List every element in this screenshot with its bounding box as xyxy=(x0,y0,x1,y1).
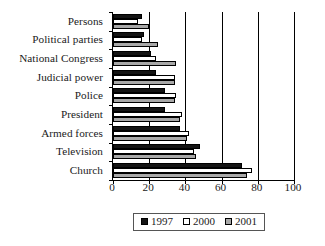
bar-2001 xyxy=(113,173,247,178)
category-label: Persons xyxy=(0,12,108,31)
y-axis-category-labels: PersonsPolitical partiesNational Congres… xyxy=(0,12,108,180)
category-label: National Congress xyxy=(0,49,108,68)
category-label: Armed forces xyxy=(0,124,108,143)
bar-2001 xyxy=(113,154,196,159)
legend-item: 2000 xyxy=(183,216,215,227)
bar-2001 xyxy=(113,24,149,29)
x-tick-label: 60 xyxy=(215,182,226,193)
x-tick-label: 0 xyxy=(109,182,115,193)
bar-group xyxy=(113,124,294,143)
bar-2001 xyxy=(113,98,175,103)
bar-group xyxy=(113,12,294,31)
category-label: Judicial power xyxy=(0,68,108,87)
bar-group xyxy=(113,49,294,68)
plot-area xyxy=(112,12,294,180)
bar-group xyxy=(113,31,294,50)
x-tick-label: 80 xyxy=(251,182,262,193)
bar-group xyxy=(113,143,294,162)
legend-label: 2000 xyxy=(193,216,215,227)
legend-label: 1997 xyxy=(151,216,173,227)
legend-item: 2001 xyxy=(225,216,257,227)
bar-2001 xyxy=(113,61,176,66)
bar-2001 xyxy=(113,80,175,85)
category-label: Police xyxy=(0,87,108,106)
category-label: Television xyxy=(0,143,108,162)
category-label: Political parties xyxy=(0,31,108,50)
bar-2001 xyxy=(113,117,180,122)
bar-chart: PersonsPolitical partiesNational Congres… xyxy=(0,0,325,246)
category-label: Church xyxy=(0,161,108,180)
bar-group xyxy=(113,161,294,180)
x-tick-label: 100 xyxy=(285,182,302,193)
bar-group xyxy=(113,105,294,124)
white-square-icon xyxy=(183,218,190,225)
category-label: President xyxy=(0,105,108,124)
black-square-icon xyxy=(141,218,148,225)
bar-group xyxy=(113,87,294,106)
bar-2001 xyxy=(113,42,158,47)
chart-legend: 199720002001 xyxy=(133,213,265,231)
gray-square-icon xyxy=(225,218,232,225)
x-tick-label: 40 xyxy=(179,182,190,193)
x-tick-label: 20 xyxy=(143,182,154,193)
legend-item: 1997 xyxy=(141,216,173,227)
gridline xyxy=(294,12,295,180)
bar-2001 xyxy=(113,136,187,141)
bar-group xyxy=(113,68,294,87)
x-axis-tick-labels: 020406080100 xyxy=(112,182,293,198)
legend-label: 2001 xyxy=(235,216,257,227)
